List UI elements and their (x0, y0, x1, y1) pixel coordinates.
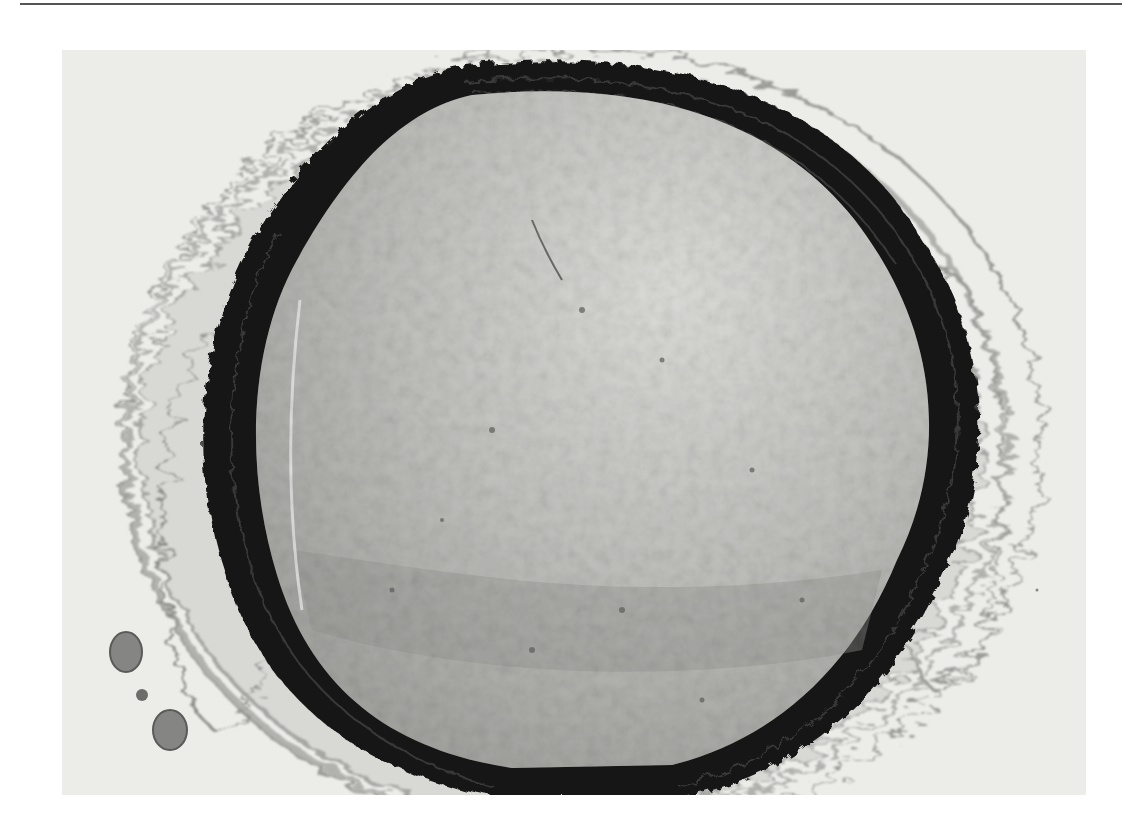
top-rule (20, 3, 1122, 5)
micrograph-image (62, 50, 1086, 795)
micrograph-figure (62, 50, 1086, 795)
lumen (256, 91, 929, 768)
